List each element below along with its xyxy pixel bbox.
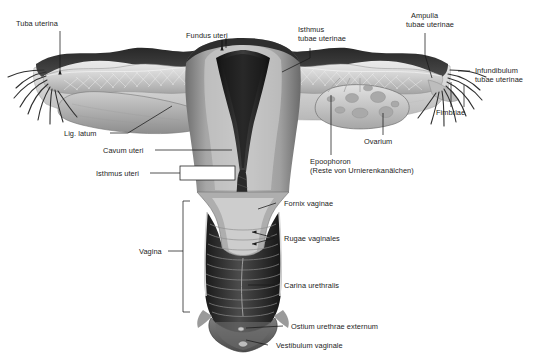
right-ovary xyxy=(315,85,409,129)
label-infundibulum-line1: Infundibulum xyxy=(475,66,518,75)
label-fundus-uteri: Fundus uteri xyxy=(186,31,228,40)
label-infundibulum-line2: tubae uterinae xyxy=(475,75,523,84)
label-epoophoron-line1: Epoophoron xyxy=(310,157,351,166)
label-lig-latum: Lig. latum xyxy=(64,129,97,138)
label-fimbriae: Fimbriae xyxy=(436,108,465,117)
label-isthmus-tubae-line2: tubae uterinae xyxy=(298,34,346,43)
anatomy-illustration xyxy=(0,0,536,363)
ostium-urethrae-externum xyxy=(238,327,244,331)
label-ampulla-line1: Ampulla xyxy=(411,11,438,20)
label-ostium-urethrae: Ostium urethrae externum xyxy=(291,322,378,331)
isthmus-uteri-box xyxy=(180,166,235,180)
label-epoophoron-line2: (Reste von Urnierenkanälchen) xyxy=(310,166,414,175)
label-vestibulum-vaginale: Vestibulum vaginale xyxy=(276,341,343,350)
label-carina-urethralis: Carina urethralis xyxy=(284,281,339,290)
label-tuba-uterina: Tuba uterina xyxy=(16,19,58,28)
label-isthmus-uteri: Isthmus uteri xyxy=(96,169,139,178)
label-ampulla-line2: tubae uterinae xyxy=(406,20,454,29)
label-vagina: Vagina xyxy=(139,247,162,256)
vagina-span-bracket xyxy=(168,201,190,312)
label-cavum-uteri: Cavum uteri xyxy=(103,146,143,155)
label-rugae-vaginales: Rugae vaginales xyxy=(284,234,340,243)
figure-canvas: Tuba uterina Fundus uteri Isthmus tubae … xyxy=(0,0,536,363)
label-isthmus-tubae-line1: Isthmus xyxy=(298,25,324,34)
label-fornix-vaginae: Fornix vaginae xyxy=(284,199,333,208)
label-ovarium: Ovarium xyxy=(364,137,392,146)
